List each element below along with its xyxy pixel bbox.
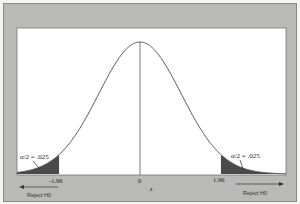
reject-label-right: Reject H0 [243,190,267,196]
alpha-label-left: α/2 = .025 [20,153,49,161]
alpha-label-right: α/2 = .025 [231,152,260,160]
tick-label-zero: 0 [138,177,141,184]
reject-label-left: Reject H0 [27,192,51,198]
axis-label-z: z [149,186,153,192]
arrowhead-left-icon [19,185,24,189]
tick-label-neg: -1.96 [49,177,63,184]
normal-distribution-chart: -1.96 0 1.96 z α/2 = .025 α/2 = .025 Rej… [0,0,300,204]
arrowhead-right-icon [279,182,284,186]
tick-label-pos: 1.96 [213,176,225,183]
